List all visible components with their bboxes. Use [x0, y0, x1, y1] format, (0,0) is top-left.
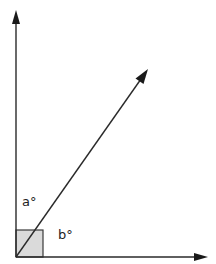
diagonal-ray [16, 69, 148, 257]
angle-b-label: b° [58, 227, 73, 242]
vertical-ray [12, 10, 20, 257]
angle-diagram: a° b° [0, 0, 216, 264]
arrowhead-right-icon [194, 253, 208, 261]
arrowhead-diagonal-icon [136, 69, 149, 84]
horizontal-ray [16, 253, 208, 261]
angle-a-label: a° [22, 194, 36, 209]
arrowhead-up-icon [12, 10, 20, 24]
right-angle-marker [16, 230, 43, 257]
